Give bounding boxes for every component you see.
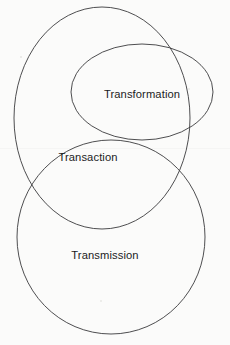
- ellipse-transaction[interactable]: [14, 7, 190, 229]
- label-transaction: Transaction: [58, 152, 117, 163]
- venn-diagram-canvas: Transformation Transaction Transmission: [0, 0, 230, 345]
- label-transmission: Transmission: [71, 250, 138, 261]
- venn-shapes-group: [0, 0, 230, 345]
- label-transformation: Transformation: [104, 89, 180, 100]
- ellipse-transmission[interactable]: [17, 140, 205, 334]
